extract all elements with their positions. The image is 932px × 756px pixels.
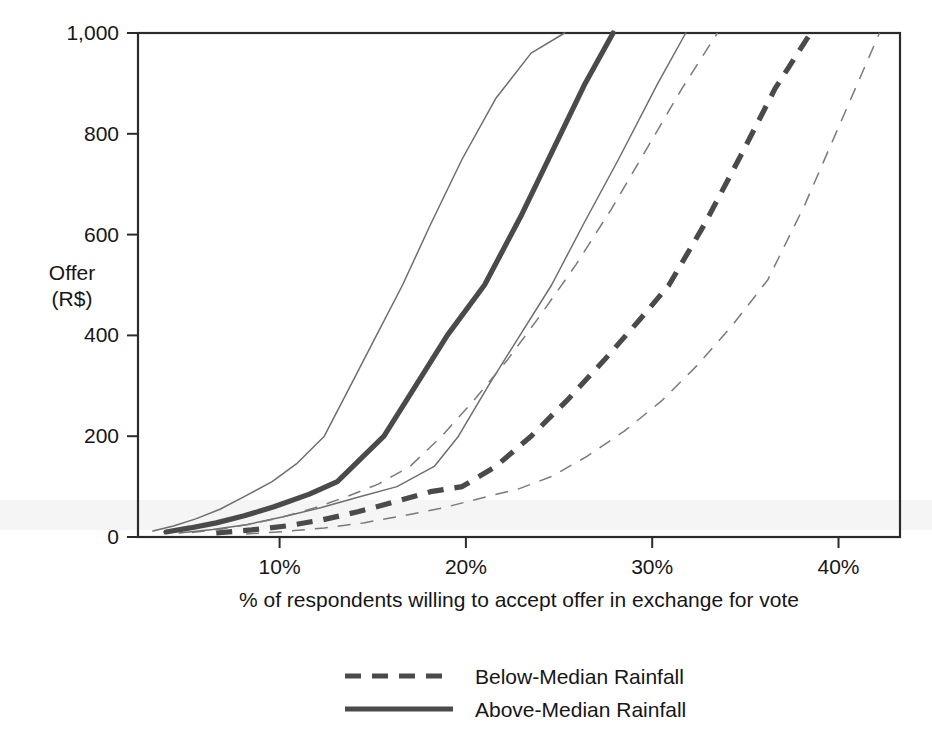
y-tick-label: 1,000 <box>66 21 119 44</box>
chart-figure: 02004006008001,000 10%20%30%40% Offer (R… <box>0 0 932 756</box>
y-tick-label: 800 <box>84 122 119 145</box>
scan-artifact-band <box>0 500 932 530</box>
y-tick-label: 600 <box>84 223 119 246</box>
y-tick-label: 400 <box>84 323 119 346</box>
x-tick-label: 10% <box>259 555 301 578</box>
x-tick-label: 20% <box>445 555 487 578</box>
y-tick-label: 0 <box>107 525 119 548</box>
legend-label: Above-Median Rainfall <box>475 698 686 721</box>
legend-label: Below-Median Rainfall <box>475 665 684 688</box>
x-tick-label: 40% <box>818 555 860 578</box>
x-axis-label: % of respondents willing to accept offer… <box>239 588 799 611</box>
y-axis-label-line2: (R$) <box>52 287 93 310</box>
figure-background <box>0 0 932 756</box>
y-axis-label-line1: Offer <box>49 261 95 284</box>
x-tick-label: 30% <box>631 555 673 578</box>
y-tick-label: 200 <box>84 424 119 447</box>
